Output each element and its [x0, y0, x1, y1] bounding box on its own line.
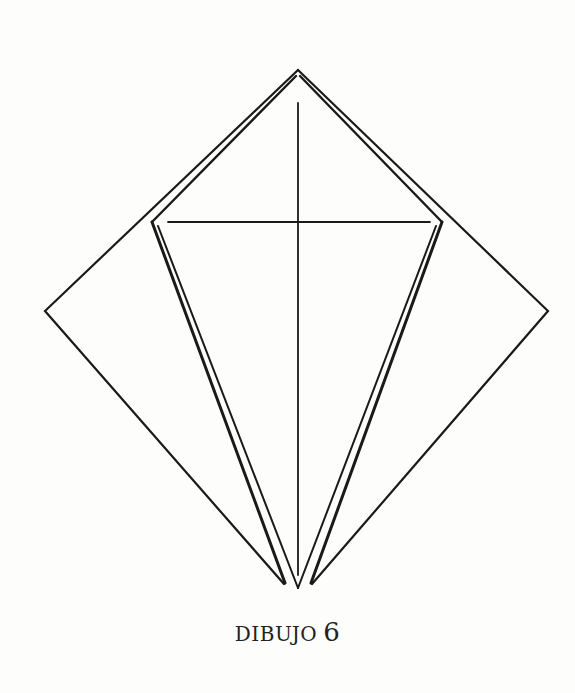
outer-diamond-left-edge	[45, 70, 298, 584]
kite-lower-right-edge-outer	[311, 222, 442, 583]
kite-lower-left-edge-outer	[152, 222, 285, 583]
kite-lower-right-edge-inner	[298, 226, 436, 588]
caption-word: DIBUJO	[235, 622, 317, 646]
caption-number: 6	[323, 617, 340, 647]
kite-lower-left-edge-inner	[158, 226, 298, 588]
origami-diagram	[0, 0, 575, 693]
inner-flap-edge-left	[152, 76, 296, 222]
outer-diamond-right-edge	[298, 70, 548, 584]
inner-flap-edge-right	[300, 76, 442, 222]
figure-caption: DIBUJO6	[0, 617, 575, 647]
